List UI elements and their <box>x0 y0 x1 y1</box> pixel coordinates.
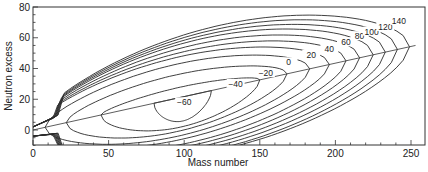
x-tick-label: 200 <box>327 148 344 159</box>
y-axis: 020406080 <box>19 2 38 146</box>
x-tick-label: 250 <box>403 148 420 159</box>
y-tick-label: 60 <box>19 32 31 43</box>
y-tick-label: 40 <box>19 63 31 74</box>
x-tick-label: 50 <box>103 148 115 159</box>
contour-label: 20 <box>306 50 316 60</box>
contour-label: 60 <box>341 37 351 47</box>
x-tick-label: 0 <box>30 148 36 159</box>
contour-label: 0 <box>286 57 291 67</box>
y-axis-label: Neutron excess <box>3 41 14 110</box>
y-tick-label: 80 <box>19 2 31 13</box>
contour-labels: −60−40−20020406080100120140 <box>175 16 408 107</box>
x-tick-label: 150 <box>251 148 268 159</box>
contour-label: −40 <box>228 79 243 89</box>
contour-label: 40 <box>325 44 335 54</box>
y-tick-label: 20 <box>19 94 31 105</box>
contour-chart: −60−40−20020406080100120140 050100150200… <box>0 0 428 172</box>
x-axis-label: Mass number <box>188 157 249 168</box>
contour-label: 140 <box>392 16 406 26</box>
contour-label: −60 <box>177 97 192 107</box>
contour-label: −20 <box>259 68 274 78</box>
y-tick-label: 0 <box>24 125 30 136</box>
